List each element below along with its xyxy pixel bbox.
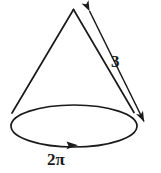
cone-diagram: 3 2π bbox=[0, 0, 161, 173]
cone-base-ellipse bbox=[11, 105, 137, 147]
cone-left-slant-edge bbox=[12, 10, 74, 114]
cone-drawing-canvas bbox=[0, 0, 161, 173]
cone-right-slant-edge bbox=[74, 10, 135, 113]
base-direction-arrowhead-icon bbox=[67, 141, 79, 149]
base-circumference-label: 2π bbox=[47, 151, 65, 168]
slant-height-label: 3 bbox=[111, 53, 120, 70]
